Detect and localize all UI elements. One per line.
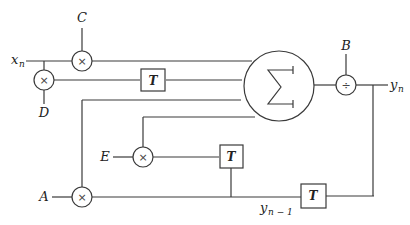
label-a: A <box>38 189 48 204</box>
multiply-symbol: × <box>77 191 86 204</box>
divide-symbol: ÷ <box>341 79 350 92</box>
divider-b: ÷ <box>336 75 356 95</box>
multiplier-e: × <box>133 147 153 167</box>
label-e: E <box>99 149 110 164</box>
label-d: D <box>38 105 50 120</box>
summer-circle <box>244 51 314 121</box>
label-x: x <box>11 52 19 67</box>
delay-block-middle: T <box>220 145 243 168</box>
summer-block <box>244 51 314 121</box>
diagram-svg: × × × × ÷ T T T C D E A B x n y n <box>0 0 410 225</box>
label-yn: y n <box>389 77 404 94</box>
label-yn-1: y n − 1 <box>259 200 293 217</box>
multiplier-c: × <box>72 51 92 71</box>
label-y: y <box>389 77 398 92</box>
label-b: B <box>340 38 351 53</box>
delay-block-bottom: T <box>301 184 326 208</box>
label-x-subscript: n <box>19 59 25 69</box>
label-yprev: y <box>259 200 268 215</box>
label-yprev-subscript: n − 1 <box>268 207 293 217</box>
label-y-subscript: n <box>398 84 404 94</box>
multiplier-a: × <box>72 187 92 207</box>
multiply-symbol: × <box>39 74 48 87</box>
multiply-symbol: × <box>77 55 86 68</box>
multiplier-d: × <box>34 70 54 90</box>
delay-block-top: T <box>141 69 165 91</box>
multiply-symbol: × <box>138 151 147 164</box>
label-xn: x n <box>11 52 25 69</box>
label-c: C <box>77 10 87 25</box>
delay-label: T <box>227 150 237 164</box>
delay-label: T <box>149 74 159 88</box>
delay-label: T <box>309 189 319 203</box>
block-diagram: × × × × ÷ T T T C D E A B x n y n <box>0 0 410 225</box>
